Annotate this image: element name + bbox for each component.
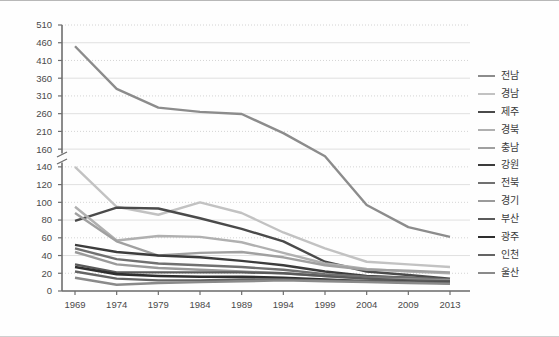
legend-item[interactable]: 충남 (478, 139, 556, 157)
legend-label: 경기 (501, 196, 519, 206)
legend-swatch-icon (478, 147, 495, 149)
legend-item[interactable]: 울산 (478, 264, 556, 282)
x-axis-tick-label: 2013 (439, 299, 460, 310)
legend-swatch-icon (478, 272, 495, 274)
legend-label: 광주 (501, 232, 519, 242)
legend-swatch-icon (478, 236, 495, 238)
legend-swatch-icon (478, 111, 495, 113)
legend-item[interactable]: 경기 (478, 192, 556, 210)
x-axis-tick-label: 2009 (398, 299, 419, 310)
legend-label: 전북 (501, 178, 519, 188)
legend-swatch-icon (478, 182, 495, 184)
y-axis-tick-label: 310 (36, 90, 52, 101)
y-axis-tick-label: 40 (41, 250, 52, 261)
legend-swatch-icon (478, 93, 495, 95)
legend-item[interactable]: 전북 (478, 174, 556, 192)
legend-label: 울산 (501, 268, 519, 278)
y-axis-tick-label: 510 (36, 19, 52, 30)
x-axis-tick-label: 1984 (189, 299, 210, 310)
legend-label: 제주 (501, 107, 519, 117)
legend-swatch-icon (478, 75, 495, 77)
x-axis-tick-label: 1979 (148, 299, 169, 310)
chart-legend: 전남경남제주경북충남강원전북경기부산광주인천울산 (478, 67, 556, 282)
y-axis-tick-label: 160 (36, 144, 52, 155)
x-axis-tick-label: 2004 (356, 299, 377, 310)
legend-item[interactable]: 경북 (478, 121, 556, 139)
legend-swatch-icon (478, 218, 495, 220)
legend-item[interactable]: 광주 (478, 228, 556, 246)
legend-label: 전남 (501, 71, 519, 81)
legend-item[interactable]: 부산 (478, 210, 556, 228)
legend-item[interactable]: 제주 (478, 103, 556, 121)
x-axis-tick-label: 1974 (106, 299, 127, 310)
x-axis-tick-label: 1969 (64, 299, 85, 310)
legend-swatch-icon (478, 164, 495, 166)
legend-label: 강원 (501, 160, 519, 170)
y-axis-tick-label: 80 (41, 214, 52, 225)
y-axis-tick-label: 120 (36, 179, 52, 190)
legend-label: 경남 (501, 89, 519, 99)
y-axis-tick-label: 140 (36, 161, 52, 172)
legend-label: 인천 (501, 250, 519, 260)
y-axis-tick-label: 410 (36, 55, 52, 66)
y-axis-tick-label: 210 (36, 126, 52, 137)
x-axis-tick-label: 1989 (231, 299, 252, 310)
y-axis-tick-label: 460 (36, 37, 52, 48)
y-axis-tick-label: 260 (36, 108, 52, 119)
legend-item[interactable]: 경남 (478, 85, 556, 103)
legend-swatch-icon (478, 254, 495, 256)
y-axis-tick-label: 60 (41, 232, 52, 243)
legend-item[interactable]: 인천 (478, 246, 556, 264)
plot-svg: 0204060801001201401602102603103604104605… (0, 1, 559, 337)
y-axis-tick-label: 0 (47, 285, 52, 296)
chart-frame: 0204060801001201401602102603103604104605… (0, 0, 559, 337)
y-axis-tick-label: 20 (41, 268, 52, 279)
legend-label: 충남 (501, 143, 519, 153)
x-axis-tick-label: 1999 (314, 299, 335, 310)
legend-swatch-icon (478, 129, 495, 131)
legend-label: 부산 (501, 214, 519, 224)
legend-item[interactable]: 전남 (478, 67, 556, 85)
legend-item[interactable]: 강원 (478, 156, 556, 174)
legend-label: 경북 (501, 125, 519, 135)
y-axis-tick-label: 360 (36, 73, 52, 84)
line-chart: 0204060801001201401602102603103604104605… (0, 1, 559, 337)
y-axis-tick-label: 100 (36, 197, 52, 208)
x-axis-tick-label: 1994 (273, 299, 294, 310)
legend-swatch-icon (478, 200, 495, 202)
